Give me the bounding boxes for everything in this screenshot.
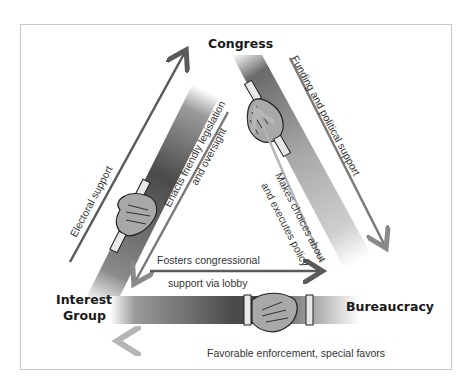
- label-fosters-line2: support via lobby: [168, 277, 248, 289]
- label-favorable: Favorable enforcement, special favors: [207, 347, 385, 359]
- node-interest-group-line1: Interest: [56, 292, 112, 307]
- node-bureaucracy: Bureaucracy: [346, 299, 434, 314]
- node-congress: Congress: [208, 36, 273, 51]
- label-fosters-line1: Fosters congressional: [157, 254, 260, 266]
- arm-bottom: [110, 296, 360, 324]
- label-electoral-support: Electoral support: [67, 164, 115, 239]
- iron-triangle-diagram: Congress Interest Group Bureaucracy Elec…: [0, 0, 471, 387]
- node-interest-group-line2: Group: [63, 308, 106, 323]
